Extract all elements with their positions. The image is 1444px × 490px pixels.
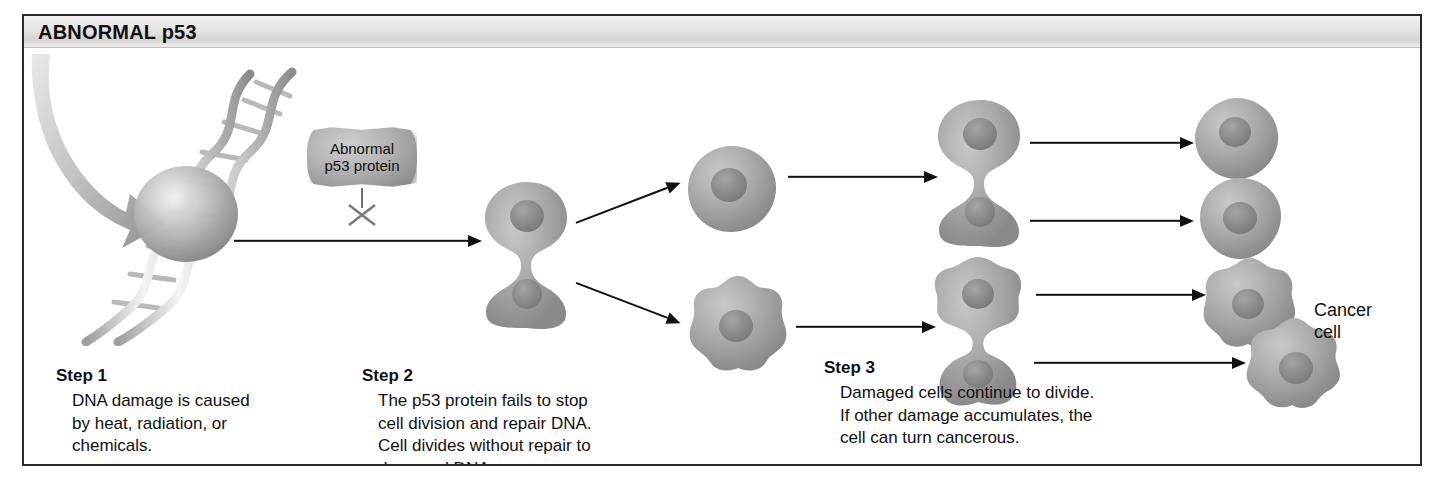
arrow-upper-to-step3 bbox=[788, 170, 938, 184]
step-2-caption: Step 2 The p53 protein fails to stop cel… bbox=[362, 366, 692, 466]
step-3-title: Step 3 bbox=[824, 358, 1204, 378]
arrow-dna-to-cell bbox=[234, 234, 482, 248]
step-1-caption: Step 1 DNA damage is caused by heat, rad… bbox=[56, 366, 346, 458]
lumpy-cell-lower bbox=[686, 274, 790, 374]
arrow-daughter-third bbox=[1036, 288, 1206, 302]
daughter-cell-top bbox=[1192, 96, 1282, 182]
cancer-cell-label: Cancer cell bbox=[1314, 300, 1372, 343]
step-3-body: Damaged cells continue to divide. If oth… bbox=[824, 382, 1204, 450]
diagram-canvas: Abnormal p53 protein bbox=[24, 48, 1420, 466]
step-1-body: DNA damage is caused by heat, radiation,… bbox=[56, 390, 346, 458]
arrow-division-lower bbox=[573, 276, 683, 329]
round-cell-upper bbox=[684, 143, 780, 235]
figure-title: ABNORMAL p53 bbox=[38, 21, 197, 44]
dividing-cell-step3-upper bbox=[932, 96, 1028, 250]
damaged-dna-double-helix bbox=[74, 56, 309, 346]
figure-header-band bbox=[24, 16, 1420, 48]
step-1-title: Step 1 bbox=[56, 366, 346, 386]
step-3-caption: Step 3 Damaged cells continue to divide.… bbox=[824, 358, 1204, 450]
step-2-body: The p53 protein fails to stop cell divis… bbox=[362, 390, 692, 466]
arrow-lower-to-step3 bbox=[796, 320, 936, 334]
protein-plaque-text: Abnormal p53 protein bbox=[307, 126, 417, 188]
dividing-cell-step2 bbox=[479, 178, 575, 332]
blocked-x-icon bbox=[345, 202, 379, 228]
daughter-cell-second bbox=[1196, 176, 1286, 262]
step-2-title: Step 2 bbox=[362, 366, 692, 386]
arrow-division-upper bbox=[573, 176, 683, 229]
arrow-daughter-second bbox=[1030, 214, 1194, 228]
abnormal-p53-protein-label: Abnormal p53 protein bbox=[307, 126, 417, 188]
arrow-daughter-top bbox=[1030, 136, 1194, 150]
figure-panel: ABNORMAL p53 bbox=[22, 14, 1422, 466]
